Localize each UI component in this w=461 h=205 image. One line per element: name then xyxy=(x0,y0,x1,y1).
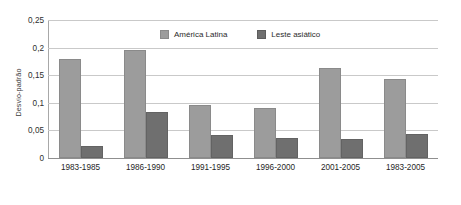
bar-leste-asiatico xyxy=(276,138,298,158)
bar-group: 2001-2005 xyxy=(308,20,373,158)
y-tick-label-1: 0,05 xyxy=(28,126,44,135)
bar-group: 1991-1995 xyxy=(178,20,243,158)
bar-america-latina xyxy=(189,105,211,158)
bar-america-latina xyxy=(124,50,146,158)
y-tick-label-3: 0,15 xyxy=(28,71,44,80)
bars-layer: 1983-19851986-19901991-19951996-20002001… xyxy=(48,20,438,158)
y-tick-label-4: 0,2 xyxy=(33,43,44,52)
plot-area: 00,050,10,150,20,25 1983-19851986-199019… xyxy=(48,20,438,158)
x-tick-label-4: 2001-2005 xyxy=(321,163,360,172)
bar-leste-asiatico xyxy=(81,146,103,158)
x-tick-label-5: 1983-2005 xyxy=(386,163,425,172)
y-tick-label-0: 0 xyxy=(39,154,44,163)
gridline-0 xyxy=(48,158,438,159)
bar-america-latina xyxy=(254,108,276,158)
chart-figure: Desvio-padrão América Latina Leste asiát… xyxy=(0,0,461,205)
bar-leste-asiatico xyxy=(341,139,363,158)
bar-leste-asiatico xyxy=(146,112,168,158)
bar-group: 1996-2000 xyxy=(243,20,308,158)
bar-group: 1986-1990 xyxy=(113,20,178,158)
y-tick-label-5: 0,25 xyxy=(28,16,44,25)
y-tick-label-2: 0,1 xyxy=(33,98,44,107)
bar-leste-asiatico xyxy=(406,134,428,158)
x-tick-label-1: 1986-1990 xyxy=(126,163,165,172)
bar-america-latina xyxy=(59,59,81,158)
x-tick-label-2: 1991-1995 xyxy=(191,163,230,172)
bar-america-latina xyxy=(384,79,406,158)
bar-america-latina xyxy=(319,68,341,158)
bar-group: 1983-2005 xyxy=(373,20,438,158)
x-tick-label-3: 1996-2000 xyxy=(256,163,295,172)
bar-group: 1983-1985 xyxy=(48,20,113,158)
y-axis-title: Desvio-padrão xyxy=(14,48,23,138)
x-tick-label-0: 1983-1985 xyxy=(61,163,100,172)
bar-leste-asiatico xyxy=(211,135,233,158)
